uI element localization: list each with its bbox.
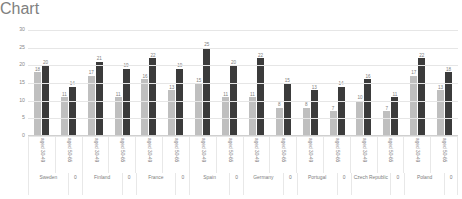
country-axis-separator: 0 bbox=[337, 173, 351, 195]
gridline bbox=[28, 101, 458, 102]
age-category-axis: aged 30-49aged 50-65aged 30-49aged 50-65… bbox=[28, 137, 458, 173]
age-axis-label: aged 50-65 bbox=[334, 138, 339, 162]
country-axis-separator-label: 0 bbox=[396, 175, 399, 181]
age-axis-cell: aged 50-65 bbox=[430, 137, 458, 173]
age-axis-label: aged 50-65 bbox=[281, 138, 286, 162]
age-axis-label: aged 30-49 bbox=[93, 138, 98, 162]
bar-value-label: 17 bbox=[411, 70, 416, 75]
country-axis-cell: Portugal bbox=[297, 173, 337, 195]
bar-value-label: 11 bbox=[62, 92, 67, 97]
age-axis-label: aged 50-65 bbox=[227, 138, 232, 162]
country-axis-separator-label: 0 bbox=[343, 175, 346, 181]
age-axis-cell: aged 30-49 bbox=[350, 137, 377, 173]
age-axis-label: aged 30-49 bbox=[308, 138, 313, 162]
bar-value-label: 8 bbox=[305, 102, 308, 107]
bar-value-label: 20 bbox=[43, 60, 48, 65]
country-axis-label: Spain bbox=[203, 175, 216, 181]
bar-value-label: 15 bbox=[196, 78, 201, 83]
gridline bbox=[28, 30, 458, 31]
bar-men: 7 bbox=[383, 111, 390, 136]
bar-value-label: 16 bbox=[142, 74, 147, 79]
bar-women: 13 bbox=[311, 90, 318, 136]
bar-value-label: 17 bbox=[89, 70, 94, 75]
bar-men: 11 bbox=[61, 97, 68, 136]
gridline bbox=[28, 65, 458, 66]
country-axis-cell: France bbox=[136, 173, 176, 195]
country-axis: Sweden0Finland0France0Spain0Germany0Port… bbox=[28, 173, 458, 195]
country-axis-label: Sweden bbox=[40, 175, 58, 181]
country-axis-label: Czech Republic bbox=[354, 175, 388, 181]
age-axis-label: aged 30-49 bbox=[415, 138, 420, 162]
bar-men: 11 bbox=[115, 97, 122, 136]
age-axis-label: aged 30-49 bbox=[200, 138, 205, 162]
country-axis-label: Poland bbox=[417, 175, 432, 181]
country-axis-separator-label: 0 bbox=[128, 175, 131, 181]
plot-wrapper: 051015202530 182011141721111916221319152… bbox=[0, 18, 462, 199]
gridline bbox=[28, 83, 458, 84]
bar-value-label: 11 bbox=[250, 92, 255, 97]
bar-men: 13 bbox=[437, 90, 444, 136]
country-axis-separator: 0 bbox=[68, 173, 82, 195]
y-axis-tick-label: 30 bbox=[19, 27, 25, 32]
bar-value-label: 11 bbox=[392, 92, 397, 97]
bar-value-label: 13 bbox=[312, 85, 317, 90]
bar-women: 25 bbox=[203, 48, 210, 136]
bar-men: 8 bbox=[303, 108, 310, 136]
age-axis-cell: aged 50-65 bbox=[108, 137, 135, 173]
age-axis-cell: aged 30-49 bbox=[296, 137, 323, 173]
country-axis-separator: 0 bbox=[283, 173, 297, 195]
country-axis-cell: Poland bbox=[404, 173, 444, 195]
bar-men: 17 bbox=[88, 76, 95, 136]
bar-value-label: 10 bbox=[357, 95, 362, 100]
y-axis-tick-label: 20 bbox=[19, 63, 25, 68]
bar-value-label: 21 bbox=[97, 56, 102, 61]
bar-women: 22 bbox=[257, 58, 264, 136]
country-axis-separator-label: 0 bbox=[181, 175, 184, 181]
age-axis-label: aged 50-65 bbox=[173, 138, 178, 162]
age-axis-cell: aged 30-49 bbox=[135, 137, 162, 173]
y-axis-tick-label: 5 bbox=[22, 116, 25, 121]
bar-value-label: 22 bbox=[150, 53, 155, 58]
bar-men: 17 bbox=[410, 76, 417, 136]
bar-women: 18 bbox=[445, 72, 452, 136]
country-axis-cell: Czech Republic bbox=[351, 173, 391, 195]
bar-women: 22 bbox=[149, 58, 156, 136]
bar-value-label: 25 bbox=[204, 42, 209, 47]
bar-men: 18 bbox=[34, 72, 41, 136]
bar-women: 16 bbox=[364, 79, 371, 136]
bar-men: 15 bbox=[195, 83, 202, 136]
bar-men: 8 bbox=[276, 108, 283, 136]
age-axis-label: aged 50-65 bbox=[66, 138, 71, 162]
bar-value-label: 18 bbox=[35, 67, 40, 72]
bar-value-label: 22 bbox=[419, 53, 424, 58]
age-axis-cell: aged 30-49 bbox=[403, 137, 430, 173]
age-axis-label: aged 50-65 bbox=[388, 138, 393, 162]
bar-men: 11 bbox=[249, 97, 256, 136]
country-axis-separator: 0 bbox=[122, 173, 136, 195]
age-axis-label: aged 30-49 bbox=[254, 138, 259, 162]
country-axis-separator: 0 bbox=[229, 173, 243, 195]
country-axis-separator: 0 bbox=[175, 173, 189, 195]
age-axis-cell: aged 50-65 bbox=[323, 137, 350, 173]
y-axis-tick-label: 10 bbox=[19, 98, 25, 103]
y-axis-tick-label: 15 bbox=[19, 80, 25, 85]
country-axis-separator-label: 0 bbox=[74, 175, 77, 181]
bar-men: 7 bbox=[330, 111, 337, 136]
gridline bbox=[28, 118, 458, 119]
bar-value-label: 11 bbox=[116, 92, 121, 97]
country-axis-cell: Sweden bbox=[28, 173, 68, 195]
age-axis-label: aged 50-65 bbox=[442, 138, 447, 162]
age-axis-cell: aged 30-49 bbox=[28, 137, 55, 173]
age-axis-cell: aged 30-49 bbox=[82, 137, 109, 173]
bar-value-label: 7 bbox=[332, 106, 335, 111]
y-axis: 051015202530 bbox=[0, 30, 28, 136]
country-axis-label: Portugal bbox=[308, 175, 326, 181]
country-axis-label: France bbox=[148, 175, 163, 181]
gridline bbox=[28, 48, 458, 49]
y-axis-tick-label: 25 bbox=[19, 45, 25, 50]
country-axis-cell: Spain bbox=[189, 173, 229, 195]
age-axis-label: aged 30-49 bbox=[39, 138, 44, 162]
age-axis-cell: aged 30-49 bbox=[189, 137, 216, 173]
bar-women: 15 bbox=[284, 83, 291, 136]
age-axis-cell: aged 50-65 bbox=[216, 137, 243, 173]
